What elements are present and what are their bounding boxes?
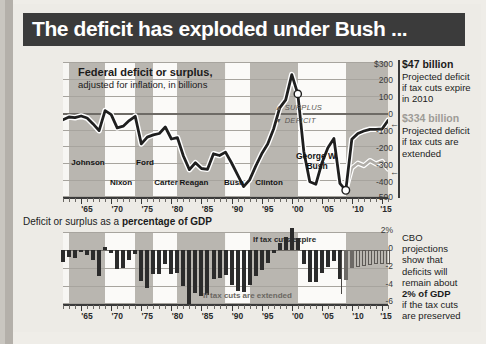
- tick-1971: [117, 198, 118, 202]
- bottom-chart: If tax cuts expire If tax cuts are exten…: [23, 228, 393, 328]
- x-tick-10: '10: [352, 204, 363, 214]
- gdp-bar-1992: [242, 250, 246, 292]
- gdp-bar-1990: [230, 250, 234, 285]
- tick-1996: [268, 305, 269, 309]
- gdp-bar-1996: [266, 250, 270, 263]
- x-tick-75: '75: [142, 204, 153, 214]
- y-tick-b-2: 2%: [355, 225, 393, 235]
- president-label-bush: Bush: [218, 178, 250, 187]
- bottom-chart-heading-plain: Deficit or surplus as a: [23, 216, 122, 227]
- gdp-bar-2004: [314, 250, 318, 282]
- tick-1973: [129, 305, 130, 309]
- x-tick-00: '00: [292, 204, 303, 214]
- cbo-line4: deficits will: [402, 266, 476, 277]
- tick-2016: [388, 305, 389, 309]
- infographic-page: The deficit has exploded under Bush ...: [0, 0, 486, 344]
- tick-1994: [256, 305, 257, 309]
- gdp-bar-2010: [350, 250, 354, 268]
- gdp-bar-2009: [344, 250, 348, 280]
- tick-1992: [244, 305, 245, 309]
- tick-1992: [244, 198, 245, 202]
- x-tick-b-85: '85: [202, 311, 213, 321]
- tick-1972: [123, 198, 124, 202]
- marker-2000-peak: [294, 90, 301, 97]
- gdp-bar-1977: [151, 250, 155, 274]
- gdp-bar-1993: [248, 250, 252, 285]
- tick-1962: [63, 305, 64, 309]
- gdp-bar-1989: [224, 250, 228, 275]
- tick-1969: [105, 198, 106, 202]
- tick-2009: [346, 305, 347, 309]
- x-tick-70: '70: [111, 204, 122, 214]
- tick-1967: [93, 198, 94, 202]
- y-tick-100: 100: [355, 92, 393, 102]
- tick-2007: [334, 305, 335, 309]
- tick-1989: [226, 305, 227, 309]
- tick-2014: [376, 305, 377, 309]
- tick-1981: [177, 305, 178, 309]
- annotation-divider-rule: [398, 60, 400, 198]
- tick-1974: [135, 198, 136, 202]
- president-label-nixon: Nixon: [105, 178, 137, 187]
- y-tick-0: 0: [355, 109, 393, 119]
- tick-2003: [310, 198, 311, 202]
- x-tick-b-70: '70: [111, 311, 122, 321]
- y-tick-neg400: -400: [355, 177, 393, 187]
- tick-1999: [286, 305, 287, 309]
- gdp-bar-2003: [308, 250, 312, 282]
- arrow-left-icon-expire: ←: [390, 120, 399, 129]
- page-edge-inner-shadow: [5, 0, 13, 344]
- x-tick-05: '05: [322, 204, 333, 214]
- x-tick-15: '15: [380, 204, 391, 214]
- gdp-bar-1982: [181, 250, 185, 286]
- president-label-ford: Ford: [132, 158, 158, 167]
- y-tick-b-neg2: -2: [355, 261, 393, 271]
- top-chart-x-axis: '65 '70 '75 '80 '85 '90 '95 '00 '05 '10 …: [63, 197, 388, 213]
- tick-1982: [183, 198, 184, 202]
- gdp-bar-1971: [115, 250, 119, 269]
- tick-2013: [370, 305, 371, 309]
- gdp-bar-2002: [302, 250, 306, 264]
- cbo-line6: 2% of GDP: [402, 288, 476, 299]
- tick-1966: [87, 305, 88, 309]
- legend-surplus: ▲ SURPLUS: [275, 103, 322, 112]
- gdp-bar-1981: [175, 250, 179, 273]
- gdp-bar-1972: [121, 250, 125, 268]
- tick-2003: [310, 305, 311, 309]
- x-tick-95: '95: [262, 204, 273, 214]
- tick-1963: [69, 198, 70, 202]
- cbo-line1: CBO: [402, 232, 476, 243]
- legend-surplus-label: SURPLUS: [285, 103, 323, 112]
- gdp-bar-1974: [133, 250, 137, 254]
- tick-1998: [280, 198, 281, 202]
- top-chart-title: Federal deficit or surplus,: [78, 66, 212, 78]
- president-label-clinton: Clinton: [249, 178, 289, 187]
- x-tick-80: '80: [172, 204, 183, 214]
- note-if-tax-cuts-extended: If tax cuts are extended: [203, 291, 292, 300]
- tick-2011: [358, 305, 359, 309]
- tick-1996: [268, 198, 269, 202]
- tick-1968: [99, 305, 100, 309]
- gdp-bar-1987: [212, 250, 216, 279]
- tick-1984: [195, 305, 196, 309]
- tick-2014: [376, 198, 377, 202]
- gdp-bar-1979: [163, 250, 167, 264]
- gdp-bar-1995: [260, 250, 264, 270]
- tick-1981: [177, 198, 178, 202]
- tick-1988: [220, 305, 221, 309]
- tick-1971: [117, 305, 118, 309]
- cbo-line5: remain about: [402, 277, 476, 288]
- x-tick-b-90: '90: [232, 311, 243, 321]
- gdp-bar-1976: [145, 250, 149, 288]
- y-tick-neg100: -100: [355, 126, 393, 136]
- tick-2016: [388, 198, 389, 202]
- gdp-bar-1969: [103, 247, 107, 250]
- tick-1976: [147, 305, 148, 309]
- y-tick-neg200: -200: [355, 143, 393, 153]
- tick-2013: [370, 198, 371, 202]
- tick-1973: [129, 198, 130, 202]
- legend-deficit: ▼ DEFICIT: [275, 116, 316, 125]
- gdp-bar-1978: [157, 250, 161, 274]
- tick-1983: [189, 305, 190, 309]
- marker-projection-split: [342, 187, 350, 195]
